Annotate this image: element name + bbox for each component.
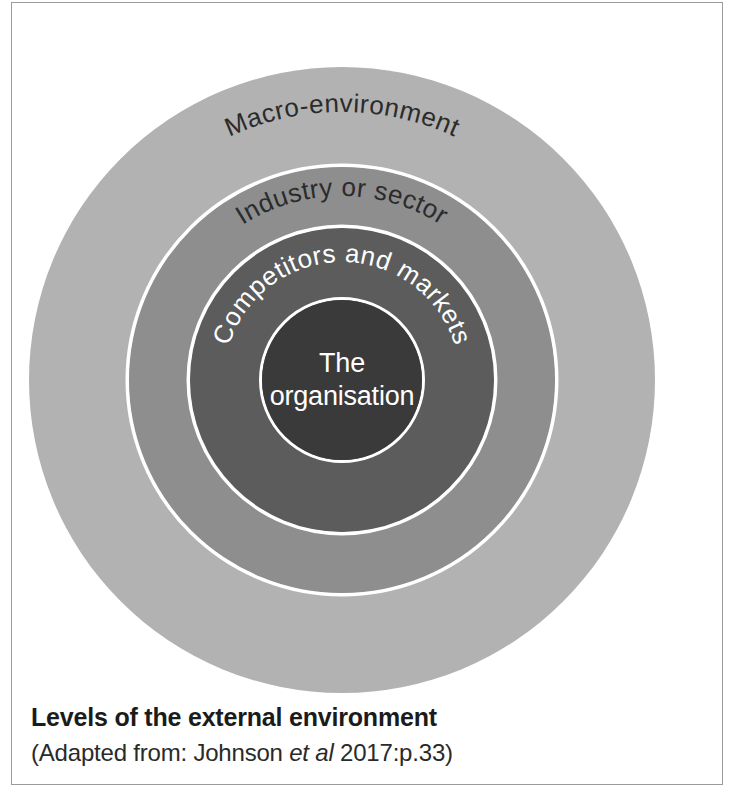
caption-title: Levels of the external environment bbox=[31, 703, 701, 732]
label-the-organisation-line1: The bbox=[222, 347, 462, 380]
caption-source-italic: et al bbox=[289, 739, 333, 766]
label-the-organisation-line2: organisation bbox=[222, 380, 462, 413]
diagram-area: Macro-environment Industry or sector Com… bbox=[12, 3, 724, 697]
label-the-organisation: The organisation bbox=[222, 347, 462, 413]
figure-caption: Levels of the external environment (Adap… bbox=[31, 703, 701, 768]
figure-frame: Macro-environment Industry or sector Com… bbox=[11, 2, 723, 785]
caption-source-prefix: (Adapted from: Johnson bbox=[31, 739, 289, 766]
caption-source-suffix: 2017:p.33) bbox=[334, 739, 453, 766]
caption-source: (Adapted from: Johnson et al 2017:p.33) bbox=[31, 739, 701, 768]
